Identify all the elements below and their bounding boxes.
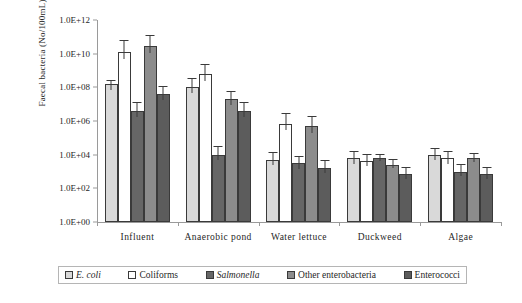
- plot-area: 1.0E+121.0E+101.0E+081.0E+061.0E+041.0E+…: [97, 20, 501, 222]
- error-bar: [150, 35, 151, 53]
- bar: [399, 174, 412, 222]
- x-tick-label: Algae: [448, 232, 473, 242]
- error-bar: [379, 154, 380, 162]
- bar-slot: [360, 20, 373, 222]
- bar: [347, 158, 360, 222]
- bar: [292, 163, 305, 222]
- x-tick-label: Influent: [121, 232, 155, 242]
- legend-swatch-icon: [287, 271, 295, 279]
- error-bar: [353, 151, 354, 164]
- bar: [386, 165, 399, 222]
- error-bar: [311, 116, 312, 133]
- error-bar: [486, 167, 487, 179]
- chart-figure: Faecal bacteria (No/100mL) 1.0E+121.0E+1…: [0, 0, 522, 303]
- y-tick-label: 1.0E+12: [59, 15, 97, 25]
- legend-swatch-icon: [128, 271, 136, 279]
- bar-slot: [386, 20, 399, 222]
- y-tick-label: 1.0E+08: [59, 82, 97, 92]
- bar-slot: [279, 20, 292, 222]
- bar: [238, 111, 251, 222]
- bar-slot: [199, 20, 212, 222]
- bar-slot: [454, 20, 467, 222]
- bar: [186, 87, 199, 222]
- bar: [266, 160, 279, 222]
- error-bar: [205, 64, 206, 81]
- bar: [454, 172, 467, 223]
- bar-slot: [105, 20, 118, 222]
- error-bar: [111, 80, 112, 90]
- bar: [428, 155, 441, 222]
- x-tick-label: Duckweed: [358, 232, 402, 242]
- bar: [212, 155, 225, 222]
- chart-legend: E. coliColiformsSalmonellaOther enteroba…: [58, 266, 467, 284]
- bar: [225, 99, 238, 222]
- y-tick-label: 1.0E+04: [59, 150, 97, 160]
- x-tick-mark: [420, 222, 421, 226]
- y-axis-title: Faecal bacteria (No/100mL): [37, 0, 47, 143]
- bar-slot: [118, 20, 131, 222]
- x-axis-line: [97, 222, 501, 223]
- x-tick-label: Anaerobic pond: [185, 232, 252, 242]
- bar-group: [97, 20, 178, 222]
- bar-slot: [480, 20, 493, 222]
- bar: [199, 74, 212, 222]
- legend-item[interactable]: Coliforms: [128, 270, 178, 280]
- bar: [360, 161, 373, 222]
- error-bar: [163, 86, 164, 100]
- legend-swatch-icon: [404, 271, 412, 279]
- bar-group: [259, 20, 340, 222]
- error-bar: [434, 148, 435, 160]
- legend-item[interactable]: E. coli: [65, 270, 101, 280]
- x-tick-mark: [178, 222, 179, 226]
- bar-slot: [441, 20, 454, 222]
- y-tick-label: 1.0E+10: [59, 49, 97, 59]
- bar-slot: [157, 20, 170, 222]
- bar-slot: [144, 20, 157, 222]
- bar: [373, 158, 386, 222]
- bar-slot: [186, 20, 199, 222]
- legend-item[interactable]: Salmonella: [206, 270, 260, 280]
- bar-slot: [266, 20, 279, 222]
- bar: [131, 111, 144, 222]
- bar-slot: [212, 20, 225, 222]
- error-bar: [218, 146, 219, 161]
- y-tick-label: 1.0E+02: [59, 183, 97, 193]
- bar: [441, 158, 454, 222]
- error-bar: [272, 152, 273, 165]
- bar: [467, 158, 480, 222]
- legend-item[interactable]: Other enterobacteria: [287, 270, 376, 280]
- bar: [480, 174, 493, 222]
- bar: [105, 84, 118, 222]
- error-bar: [137, 102, 138, 117]
- error-bar: [124, 40, 125, 60]
- bar-slot: [305, 20, 318, 222]
- legend-item[interactable]: Enterococci: [404, 270, 460, 280]
- bar: [279, 124, 292, 222]
- bar: [144, 46, 157, 222]
- x-tick-mark: [259, 222, 260, 226]
- bar-group: [420, 20, 501, 222]
- bar-slot: [292, 20, 305, 222]
- error-bar: [392, 159, 393, 168]
- bar-group: [339, 20, 420, 222]
- bar-slot: [373, 20, 386, 222]
- bar-slot: [428, 20, 441, 222]
- bar-slot: [225, 20, 238, 222]
- legend-label: Other enterobacteria: [298, 270, 376, 280]
- error-bar: [298, 156, 299, 168]
- bar-slot: [238, 20, 251, 222]
- error-bar: [460, 164, 461, 176]
- error-bar: [285, 113, 286, 130]
- legend-label: Enterococci: [415, 270, 460, 280]
- bar: [305, 126, 318, 222]
- error-bar: [231, 91, 232, 105]
- y-tick-label: 1.0E+00: [59, 217, 97, 227]
- bar-slot: [318, 20, 331, 222]
- x-tick-mark: [339, 222, 340, 226]
- bar-slot: [467, 20, 480, 222]
- legend-label: Coliforms: [139, 270, 178, 280]
- x-tick-mark: [97, 222, 98, 226]
- error-bar: [324, 160, 325, 173]
- error-bar: [244, 102, 245, 116]
- x-tick-mark: [501, 222, 502, 226]
